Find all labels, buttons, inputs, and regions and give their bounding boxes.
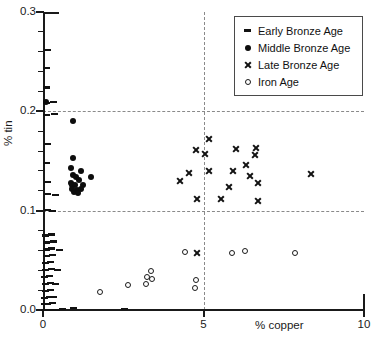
y-axis-minor-tick <box>38 190 44 191</box>
data-point <box>78 186 84 192</box>
data-point <box>242 161 250 169</box>
data-point <box>205 167 213 175</box>
legend-item-label: Iron Age <box>258 76 299 88</box>
data-point <box>143 281 149 287</box>
data-point <box>144 274 150 280</box>
y-axis-top-cap <box>43 12 59 14</box>
data-point <box>73 174 79 180</box>
dash-icon <box>241 24 254 37</box>
data-point <box>71 189 77 195</box>
data-point <box>44 303 51 305</box>
data-point <box>47 282 54 284</box>
data-point <box>50 240 57 242</box>
data-point <box>76 177 82 183</box>
y-axis-minor-tick <box>38 91 44 92</box>
x-axis-right-cap <box>363 294 365 311</box>
data-point <box>70 155 76 161</box>
x-axis-tick <box>203 310 205 317</box>
x-axis-title: % copper <box>255 319 304 331</box>
data-point <box>307 170 315 178</box>
y-axis-tick-label: 0.0 <box>6 304 36 315</box>
data-point <box>68 165 74 171</box>
data-point <box>184 169 192 177</box>
data-point <box>49 302 56 304</box>
data-point <box>68 180 74 186</box>
data-point <box>292 250 298 256</box>
data-point <box>252 144 260 152</box>
data-point <box>51 113 58 115</box>
data-point <box>75 190 81 196</box>
data-point <box>192 146 200 154</box>
data-point <box>176 177 184 185</box>
data-point <box>78 168 84 174</box>
data-point <box>69 182 75 188</box>
data-point <box>50 296 57 298</box>
legend-marker <box>245 45 251 51</box>
y-axis-minor-tick <box>38 250 44 251</box>
data-point <box>192 285 198 291</box>
data-point <box>47 289 54 291</box>
legend-item[interactable]: Early Bronze Age <box>241 22 356 39</box>
data-point <box>74 187 80 193</box>
data-point <box>72 182 78 188</box>
data-point <box>201 150 209 158</box>
y-axis-minor-tick <box>38 131 44 132</box>
y-axis-line <box>43 12 45 311</box>
x-axis-tick-label: 10 <box>351 319 377 330</box>
data-point <box>253 179 261 187</box>
filled-circle-icon <box>241 41 254 54</box>
data-point <box>232 145 240 153</box>
y-axis-tick-label: 0.1 <box>6 205 36 216</box>
data-point <box>54 269 61 271</box>
data-point <box>149 276 155 282</box>
y-axis-minor-tick <box>38 170 44 171</box>
legend-marker <box>244 61 252 69</box>
data-point <box>70 172 76 178</box>
data-point <box>193 277 199 283</box>
legend-marker <box>244 29 251 31</box>
gridline-vertical <box>204 12 205 310</box>
legend-item[interactable]: Iron Age <box>241 73 356 90</box>
data-point <box>242 248 248 254</box>
legend-item-label: Early Bronze Age <box>258 25 343 37</box>
y-axis-tick <box>36 11 44 13</box>
cross-icon <box>241 58 254 71</box>
legend-marker <box>245 79 251 85</box>
scatter-plot-figure: 0.00.10.20.30510 % tin % copper Early Br… <box>0 0 385 345</box>
data-point <box>48 247 55 249</box>
y-axis-minor-tick <box>38 290 44 291</box>
data-point <box>217 195 225 203</box>
y-axis-tick <box>36 210 44 212</box>
data-point <box>56 249 63 251</box>
legend-item[interactable]: Middle Bronze Age <box>241 39 356 56</box>
y-axis-tick-label: 0.3 <box>6 6 36 17</box>
legend: Early Bronze Age Middle Bronze Age Late … <box>234 16 363 96</box>
x-axis-tick-label: 0 <box>30 319 56 330</box>
data-point <box>46 296 53 298</box>
x-axis-tick <box>42 310 44 317</box>
y-axis-title: % tin <box>2 120 14 146</box>
data-point <box>46 275 53 277</box>
data-point <box>182 249 188 255</box>
legend-item[interactable]: Late Bronze Age <box>241 56 356 73</box>
y-axis-minor-tick <box>38 51 44 52</box>
x-axis-tick <box>363 310 365 317</box>
y-axis-minor-tick <box>38 230 44 231</box>
y-axis-minor-tick <box>38 151 44 152</box>
data-point <box>246 172 254 180</box>
y-axis-tick <box>36 110 44 112</box>
data-point <box>97 289 103 295</box>
data-point <box>251 151 259 159</box>
data-point <box>254 197 262 205</box>
data-point <box>47 261 54 263</box>
data-point <box>52 194 59 196</box>
data-point <box>52 283 59 285</box>
legend-item-label: Late Bronze Age <box>258 59 339 71</box>
open-circle-icon <box>241 75 254 88</box>
y-axis-minor-tick <box>38 31 44 32</box>
y-axis-tick-label: 0.2 <box>6 105 36 116</box>
data-point <box>49 254 56 256</box>
data-point <box>229 250 235 256</box>
data-point <box>80 182 86 188</box>
data-point <box>88 174 94 180</box>
